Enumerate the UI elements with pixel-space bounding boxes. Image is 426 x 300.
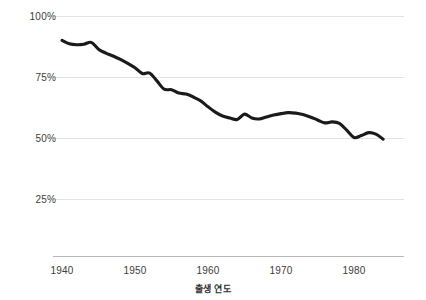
line-chart: 100% 75% 50% 25% 1940 1950 1960 1970 198… bbox=[0, 0, 426, 300]
x-axis-tick-1970: 1970 bbox=[269, 265, 292, 276]
x-axis-line bbox=[53, 256, 404, 257]
x-axis-tick-1980: 1980 bbox=[342, 265, 365, 276]
x-axis-tick-1940: 1940 bbox=[50, 265, 73, 276]
x-axis-tick-1950: 1950 bbox=[123, 265, 146, 276]
x-axis-title: 출생 연도 bbox=[0, 282, 426, 295]
x-axis-tick-1960: 1960 bbox=[196, 265, 219, 276]
series-line bbox=[62, 40, 383, 139]
series-line-group bbox=[0, 0, 426, 300]
plot-area: 100% 75% 50% 25% 1940 1950 1960 1970 198… bbox=[0, 0, 426, 300]
